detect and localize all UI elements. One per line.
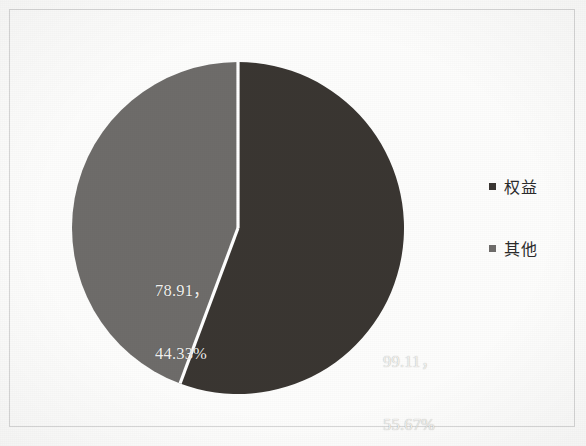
legend-item-equity[interactable]: 权益 bbox=[489, 175, 569, 197]
legend-label-other: 其他 bbox=[504, 236, 538, 260]
slice-label-equity-percent: 55.67% bbox=[383, 414, 438, 435]
legend-label-equity: 权益 bbox=[504, 174, 538, 198]
legend-swatch-icon-equity bbox=[489, 183, 496, 190]
slice-label-equity: 99.11， 55.67% bbox=[383, 309, 438, 446]
chart-legend: 权益 其他 bbox=[489, 175, 569, 299]
slice-label-equity-value: 99.11， bbox=[383, 351, 438, 372]
legend-swatch-icon-other bbox=[489, 245, 496, 252]
legend-item-other[interactable]: 其他 bbox=[489, 237, 569, 259]
chart-canvas: 78.91， 44.33% 99.11， 55.67% 权益 其他 bbox=[0, 0, 586, 446]
slice-label-other: 78.91， 44.33% bbox=[155, 238, 210, 406]
slice-label-other-percent: 44.33% bbox=[155, 343, 210, 364]
pie-chart-svg bbox=[71, 61, 405, 395]
slice-label-other-value: 78.91， bbox=[155, 280, 210, 301]
pie-chart: 78.91， 44.33% 99.11， 55.67% bbox=[71, 61, 405, 395]
